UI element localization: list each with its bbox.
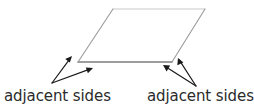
label-adjacent-sides-right: adjacent sides xyxy=(147,89,254,104)
parallelogram-fill xyxy=(78,9,205,62)
parallelogram-diagram: adjacent sides adjacent sides xyxy=(0,0,254,111)
left-arrow-lower-head xyxy=(86,68,93,74)
right-arrow-lower xyxy=(163,65,196,86)
label-adjacent-sides-left: adjacent sides xyxy=(4,89,111,104)
right-arrow-upper xyxy=(177,58,196,86)
